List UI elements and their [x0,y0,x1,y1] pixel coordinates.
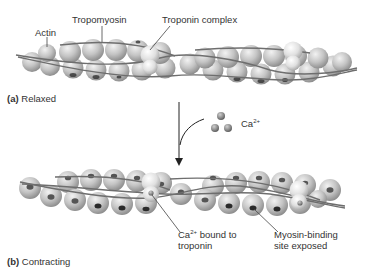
ca-bound-text: bound to [197,229,237,240]
panel-b-caption: (b) Contracting [7,256,70,267]
myosin-binding-site-label: Myosin-bindingsite exposed [274,229,338,251]
tropomyosin-label: Tropomyosin [72,14,127,25]
calcium-charge: 2+ [253,118,260,124]
panel-b-title: Contracting [22,256,71,267]
panel-b-letter: (b) [7,256,19,267]
ca-bound-label: Ca2+ bound totroponin [178,229,237,251]
ca-bound-base: Ca [178,229,190,240]
panel-a-letter: (a) [7,93,19,104]
ca-bound-charge: 2+ [190,229,197,235]
relaxed-filament [16,26,357,85]
contracting-filament [19,169,345,232]
calcium-label: Ca2+ [241,118,260,129]
transition-arrow [175,102,204,166]
actin-label: Actin [35,27,56,38]
panel-a-caption: (a) Relaxed [7,93,56,104]
myosin-line1: Myosin-binding [274,229,338,240]
myosin-binding-site [250,206,257,211]
calcium-ions [211,112,232,132]
troponin-complex-label: Troponin complex [162,14,237,25]
ca-bound-line2: troponin [178,240,212,251]
myosin-line2: site exposed [274,240,327,251]
panel-a-title: Relaxed [21,93,56,104]
calcium-base: Ca [241,118,253,129]
